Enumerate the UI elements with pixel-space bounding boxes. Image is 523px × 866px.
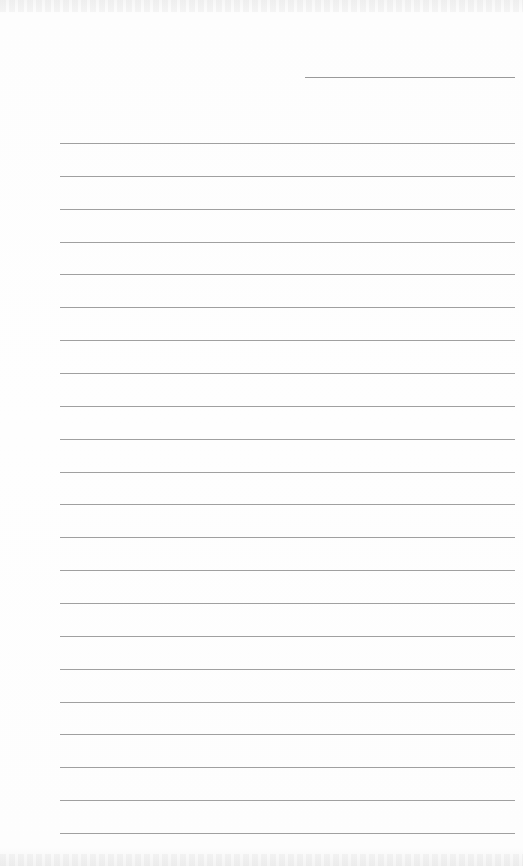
ruled-line bbox=[60, 472, 515, 473]
ruled-line bbox=[60, 603, 515, 604]
ruled-line bbox=[60, 833, 515, 834]
ruled-line bbox=[60, 636, 515, 637]
ruled-line bbox=[60, 702, 515, 703]
ruled-line bbox=[60, 537, 515, 538]
ruled-line bbox=[60, 143, 515, 144]
ruled-line bbox=[60, 242, 515, 243]
ruled-line bbox=[60, 439, 515, 440]
ruled-line bbox=[60, 767, 515, 768]
ruled-line bbox=[60, 406, 515, 407]
header-write-line bbox=[305, 77, 515, 78]
ruled-line bbox=[60, 800, 515, 801]
ruled-line bbox=[60, 669, 515, 670]
lined-paper-page bbox=[0, 0, 523, 866]
ruled-line bbox=[60, 340, 515, 341]
ruled-line bbox=[60, 504, 515, 505]
bottom-edge-bleedthrough bbox=[0, 854, 523, 866]
ruled-line bbox=[60, 307, 515, 308]
ruled-line bbox=[60, 274, 515, 275]
ruled-line bbox=[60, 373, 515, 374]
ruled-line bbox=[60, 734, 515, 735]
ruled-line bbox=[60, 209, 515, 210]
ruled-line bbox=[60, 570, 515, 571]
ruled-line bbox=[60, 176, 515, 177]
top-edge-bleedthrough bbox=[0, 0, 523, 12]
